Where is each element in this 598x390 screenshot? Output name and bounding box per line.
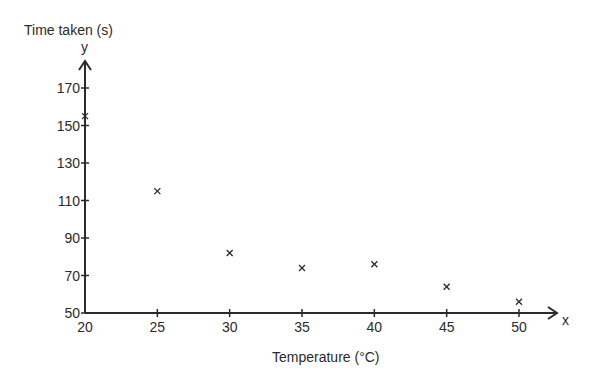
y-tick-label: 110 [58,193,81,209]
x-axis-letter: x [562,312,569,328]
x-axis-title: Temperature (°C) [272,349,380,365]
x-tick-label: 40 [367,319,383,335]
x-axis [85,307,557,319]
y-tick-label: 170 [57,80,81,96]
x-tick-label: 25 [150,319,166,335]
y-tick-label: 150 [57,118,81,134]
data-point-x-marker-icon [516,299,522,305]
x-tick-label: 30 [222,319,238,335]
y-tick-label: 130 [57,155,81,171]
scatter-chart: Time taken (s) y Temperature (°C) x 5070… [0,0,598,390]
data-point-x-marker-icon [444,284,450,290]
data-point-x-marker-icon [299,265,305,271]
y-tick-label: 90 [64,230,80,246]
x-tick-label: 35 [294,319,310,335]
y-axis-letter: y [81,39,88,55]
data-point-x-marker-icon [154,188,160,194]
data-point-x-marker-icon [371,261,377,267]
data-point-x-marker-icon [227,250,233,256]
x-tick-label: 20 [77,319,93,335]
x-tick-label: 50 [511,319,527,335]
data-points [82,113,522,305]
x-tick-label: 45 [439,319,455,335]
y-tick-label: 70 [64,268,80,284]
y-axis-title: Time taken (s) [24,22,113,38]
